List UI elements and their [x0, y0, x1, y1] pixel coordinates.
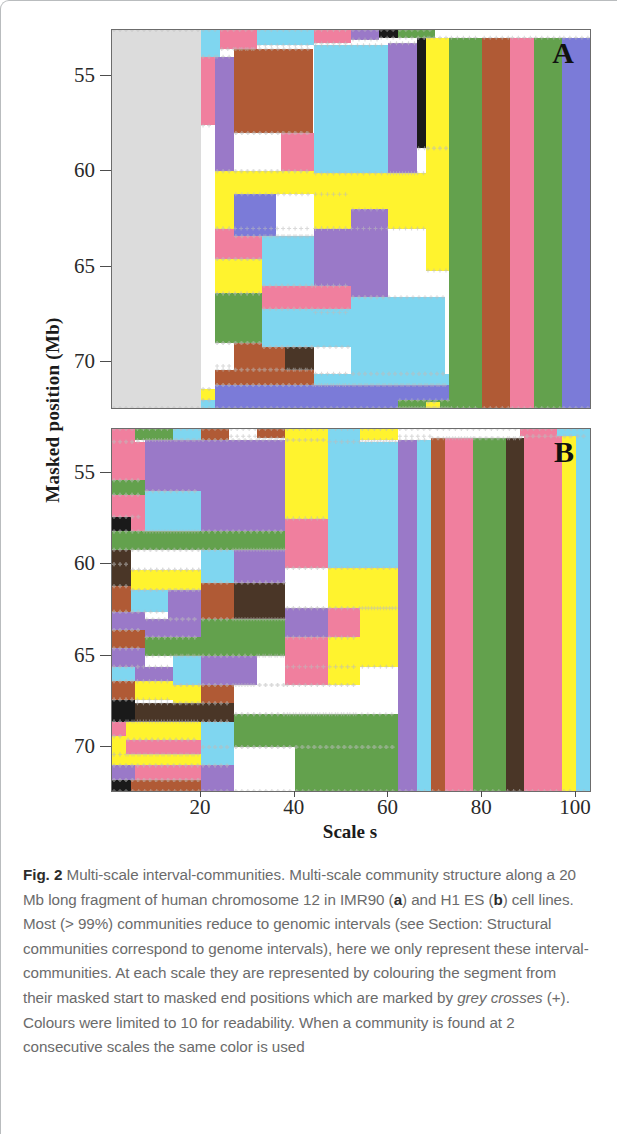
community-block: [285, 568, 327, 608]
community-block: [314, 30, 351, 43]
caption-lead: Fig. 2: [23, 866, 62, 883]
community-block: [285, 637, 327, 666]
community-block: [285, 429, 327, 440]
y-axis-label: Masked position (Mb): [42, 260, 64, 560]
community-block: [449, 38, 482, 408]
panel-a-blocks: [112, 30, 590, 408]
community-block: [328, 568, 398, 608]
panel-b-letter: B: [554, 435, 574, 469]
community-block: [234, 194, 276, 236]
community-block: [201, 656, 257, 685]
community-block: [229, 429, 257, 436]
community-block: [234, 236, 262, 259]
x-tick-label: 20: [170, 795, 230, 820]
community-block: [262, 236, 314, 286]
community-block: [131, 550, 201, 570]
y-tick-mark: [100, 746, 111, 747]
y-tick-mark: [100, 472, 111, 473]
x-tick-label: 40: [264, 795, 324, 820]
community-block: [328, 442, 398, 568]
community-block: [201, 30, 220, 57]
community-block: [285, 667, 327, 685]
community-block: [201, 747, 234, 765]
y-tick-mark: [100, 75, 111, 76]
community-block: [506, 438, 525, 791]
community-block: [135, 667, 172, 682]
community-block: [112, 754, 201, 765]
panel-a-imr90: A: [111, 29, 591, 409]
community-block: [351, 297, 445, 373]
caption-body: Multi-scale interval-communities. Multi-…: [23, 866, 589, 1055]
community-block: [215, 343, 234, 366]
community-block: [234, 49, 314, 133]
community-block: [262, 347, 285, 370]
community-block: [126, 722, 201, 740]
x-tick-label: 80: [451, 795, 511, 820]
community-block: [201, 389, 215, 400]
community-block: [112, 495, 145, 517]
community-block: [445, 438, 473, 791]
caption-segment: a: [394, 891, 402, 908]
community-block: [201, 429, 229, 440]
x-tick-label: 60: [357, 795, 417, 820]
x-axis-label: Scale s: [111, 821, 589, 843]
community-block: [257, 429, 285, 438]
community-block: [417, 440, 431, 791]
community-block: [285, 685, 360, 714]
y-tick-label: 60: [51, 158, 95, 183]
community-block: [112, 429, 135, 442]
community-block: [145, 637, 201, 655]
community-block: [135, 765, 201, 780]
community-block: [435, 429, 519, 438]
community-block: [112, 517, 131, 532]
community-block: [131, 780, 201, 791]
community-block: [135, 703, 201, 721]
community-block: [234, 685, 286, 714]
community-block: [328, 429, 361, 442]
community-block: [112, 480, 145, 495]
community-block: [398, 429, 435, 436]
y-tick-label: 70: [51, 734, 95, 759]
community-block: [482, 38, 510, 408]
community-block: [201, 583, 234, 620]
figure-caption: Fig. 2 Multi-scale interval-communities.…: [23, 863, 589, 1060]
community-block: [201, 440, 285, 531]
community-block: [112, 586, 131, 612]
community-block: [215, 293, 262, 343]
community-block: [201, 722, 234, 748]
y-tick-label: 55: [51, 460, 95, 485]
community-block: [398, 30, 435, 38]
community-block: [360, 608, 397, 667]
community-block: [285, 608, 327, 637]
community-block: [215, 259, 262, 293]
community-block: [173, 656, 201, 685]
community-block: [426, 38, 449, 149]
community-block: [112, 765, 135, 780]
community-block: [510, 38, 533, 408]
community-block: [135, 681, 172, 699]
community-block: [220, 30, 257, 49]
community-block: [360, 429, 397, 440]
community-block: [281, 133, 314, 171]
y-tick-label: 60: [51, 551, 95, 576]
community-block: [398, 440, 417, 791]
community-block: [215, 229, 234, 260]
y-tick-mark: [100, 266, 111, 267]
panel-b-h1es: B: [111, 428, 591, 792]
community-block: [215, 57, 234, 172]
community-block: [562, 38, 590, 408]
community-block: [576, 436, 590, 791]
community-block: [234, 747, 295, 791]
community-block: [234, 714, 398, 747]
y-tick-label: 70: [51, 349, 95, 374]
community-block: [520, 429, 557, 436]
community-block: [257, 656, 285, 685]
community-block: [126, 740, 201, 755]
x-tick-label: 100: [545, 795, 605, 820]
caption-segment: b: [493, 891, 502, 908]
community-block: [145, 491, 201, 531]
community-block: [201, 685, 234, 703]
community-block: [328, 667, 361, 685]
community-block: [328, 608, 361, 637]
community-block: [234, 133, 281, 171]
